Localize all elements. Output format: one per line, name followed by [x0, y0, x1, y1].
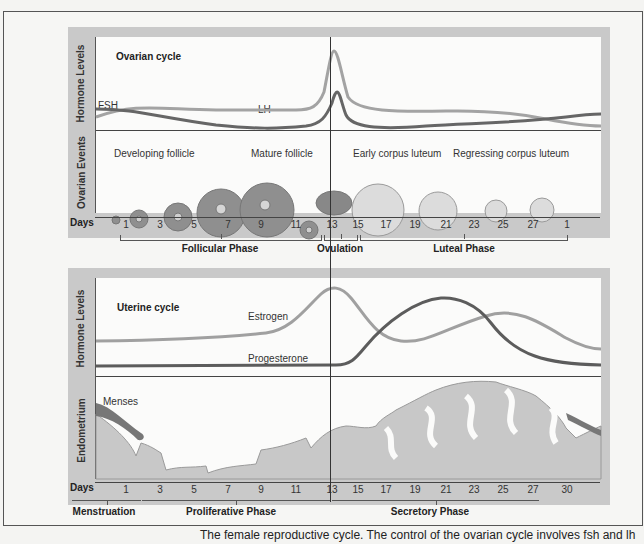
- secretory-phase-bracket: [332, 500, 539, 501]
- day-tick: 21: [440, 219, 451, 230]
- day-tick: 1: [123, 484, 129, 495]
- day-tick: 15: [352, 484, 363, 495]
- uterine-plot-area: Uterine cycle Estrogen Progesterone Mens…: [95, 278, 601, 479]
- day-tick: 13: [326, 484, 337, 495]
- day-tick: 13: [326, 219, 337, 230]
- day-tick: 27: [527, 219, 538, 230]
- proliferative-phase-label: Proliferative Phase: [186, 506, 276, 517]
- day-tick: 7: [225, 219, 231, 230]
- proliferative-phase-bracket: [142, 500, 330, 501]
- ovulation-marker-line: [330, 37, 331, 502]
- day-tick: 9: [258, 484, 264, 495]
- menstruation-label: Menstruation: [73, 506, 136, 517]
- days-label: Days: [70, 482, 94, 493]
- day-tick: 23: [468, 484, 479, 495]
- hormone-levels-axis-label: Hormone Levels: [68, 37, 94, 129]
- menstruation-bracket: [72, 500, 141, 501]
- endometrium-illustration: [96, 278, 601, 479]
- day-tick: 9: [258, 219, 264, 230]
- day-tick: 11: [291, 484, 301, 495]
- luteal-phase-label: Luteal Phase: [433, 243, 495, 254]
- secretory-phase-label: Secretory Phase: [391, 506, 469, 517]
- follicular-phase-bracket: [120, 235, 322, 241]
- day-tick: 11: [291, 219, 301, 230]
- luteal-phase-bracket: [360, 235, 568, 241]
- day-tick: 7: [225, 484, 231, 495]
- day-tick: 27: [527, 484, 538, 495]
- uterine-cycle-panel: Hormone Levels Endometrium Uterine cycle…: [68, 268, 610, 505]
- day-tick: 15: [352, 219, 363, 230]
- day-tick: 21: [440, 484, 451, 495]
- day-tick: 25: [497, 219, 508, 230]
- ovarian-plot-area: Ovarian cycle FSH LH Developing follicle…: [95, 37, 601, 213]
- day-tick: 3: [157, 484, 163, 495]
- day-tick: 30: [561, 484, 572, 495]
- day-tick: 3: [157, 219, 163, 230]
- follicular-phase-label: Follicular Phase: [182, 243, 259, 254]
- ovarian-cycle-panel: Hormone Levels Ovarian Events Ovarian cy…: [68, 27, 610, 238]
- uterine-days-axis: Days 1 3 5 7 9 11 13 15 17 19 21 23 25 2…: [68, 482, 600, 496]
- day-tick: 1: [564, 219, 570, 230]
- figure-caption: The female reproductive cycle. The contr…: [200, 528, 635, 542]
- ovarian-events-axis-label: Ovarian Events: [68, 131, 94, 213]
- day-tick: 17: [380, 219, 391, 230]
- hormone-levels-axis-label: Hormone Levels: [68, 278, 94, 378]
- day-tick: 5: [191, 484, 197, 495]
- ovarian-follicles-illustration: [96, 37, 601, 213]
- day-tick: 23: [468, 219, 479, 230]
- ovarian-days-axis: Days 1 3 5 7 9 11 13 15 17 19 21 23 25 2…: [68, 217, 600, 231]
- day-tick: 5: [191, 219, 197, 230]
- day-tick: 25: [497, 484, 508, 495]
- day-tick: 19: [409, 484, 420, 495]
- day-tick: 19: [409, 219, 420, 230]
- day-tick: 1: [123, 219, 129, 230]
- ovulation-label: Ovulation: [317, 243, 363, 254]
- day-tick: 17: [380, 484, 391, 495]
- days-label: Days: [70, 217, 94, 228]
- endometrium-axis-label: Endometrium: [68, 380, 94, 480]
